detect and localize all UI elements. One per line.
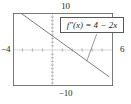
axis-label-y-min: −10 (0, 89, 131, 98)
equation-text: f″(x) = 4 − 2x (67, 21, 117, 30)
equation-annotation-box: f″(x) = 4 − 2x (60, 17, 124, 33)
axis-label-y-max: 10 (0, 2, 131, 11)
graph-figure: 10 −10 −4 6 f″(x) = 4 − 2x (0, 0, 131, 104)
axis-label-x-max: 6 (120, 45, 124, 54)
axis-label-x-min: −4 (1, 45, 10, 54)
